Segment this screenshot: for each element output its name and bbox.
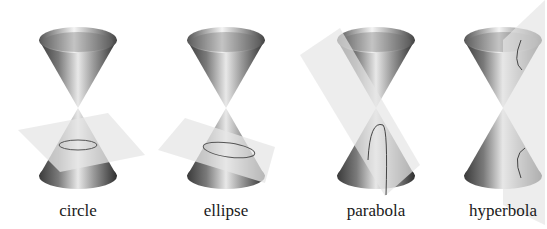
parabola-conic-figure <box>300 27 420 196</box>
ellipse-conic-figure <box>158 27 275 189</box>
circle-label: circle <box>18 201 138 221</box>
ellipse-label: ellipse <box>166 201 286 221</box>
hyperbola-label: hyperbola <box>443 201 547 221</box>
parabola-label: parabola <box>316 201 436 221</box>
conic-sections-diagram <box>0 0 547 229</box>
hyperbola-conic-figure <box>464 0 545 225</box>
circle-conic-figure <box>18 27 145 189</box>
